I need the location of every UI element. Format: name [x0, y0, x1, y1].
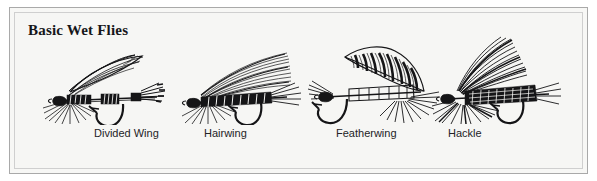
fly-illustration-divided-wing [39, 35, 189, 125]
fly-caption-featherwing: Featherwing [336, 127, 397, 139]
fly-illustration-hackle [427, 35, 577, 125]
figure-inner-border: Basic Wet Flies [14, 12, 583, 169]
fly-caption-hairwing: Hairwing [204, 127, 247, 139]
fly-caption-divided-wing: Divided Wing [94, 127, 159, 139]
fly-caption-hackle: Hackle [448, 127, 482, 139]
wet-flies-figure: Basic Wet Flies [0, 0, 597, 181]
figure-outer-border: Basic Wet Flies [9, 7, 588, 174]
figure-panel: Basic Wet Flies [15, 13, 582, 168]
